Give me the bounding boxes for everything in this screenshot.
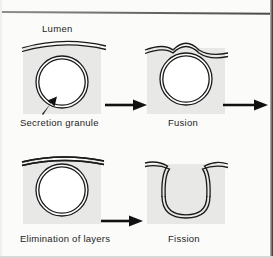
lumen-label: Lumen [42,23,73,34]
caption-secretion-granule: Secretion granule [20,117,99,128]
secretion-granule-vesicle [36,56,88,108]
caption-fission: Fission [168,233,200,244]
fused-vesicle [160,53,212,105]
merged-vesicle [36,164,88,216]
page-right-edge [270,0,273,258]
panel-fission [142,152,242,228]
caption-fusion: Fusion [168,117,198,128]
figure-container: Lumen Secretion granule [0,0,273,258]
caption-elimination-of-layers: Elimination of layers [20,233,110,244]
page-left-edge [0,0,2,258]
panel-secretion-granule [18,34,118,114]
arrow-2 [222,98,270,116]
page-top-rule [2,11,273,15]
arrow-3 [100,214,145,232]
